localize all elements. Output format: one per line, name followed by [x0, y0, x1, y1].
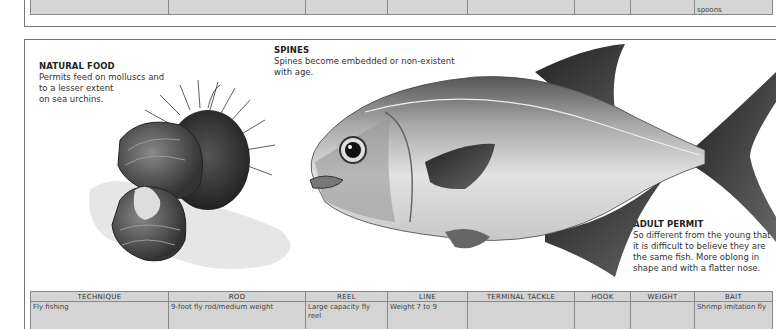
cell-technique: Fly fishing: [31, 302, 169, 329]
cell-reel: Large capacity fly reel: [306, 302, 388, 329]
col-header-bait: BAIT: [695, 292, 773, 302]
sea-urchin-mollusc-illustration: [80, 80, 310, 280]
tackle-table: TECHNIQUE ROD REEL LINE TERMINAL TACKLE …: [30, 291, 773, 329]
col-header-terminal-tackle: TERMINAL TACKLE: [468, 292, 575, 302]
col-header-reel: REEL: [306, 292, 388, 302]
caption-title: NATURAL FOOD: [39, 61, 164, 72]
prev-cell: [631, 0, 695, 15]
cell-terminal-tackle: [468, 302, 575, 329]
cell-weight: [631, 302, 695, 329]
col-header-technique: TECHNIQUE: [31, 292, 169, 302]
previous-tackle-table: spoons: [30, 0, 773, 15]
col-header-hook: HOOK: [575, 292, 631, 302]
prev-cell: [388, 0, 468, 15]
adult-permit-fish-illustration: [295, 42, 776, 282]
prev-cell-bait: spoons: [695, 0, 773, 15]
col-header-weight: WEIGHT: [631, 292, 695, 302]
cell-line: Weight 7 to 9: [388, 302, 468, 329]
prev-cell: [306, 0, 388, 15]
prev-cell: [468, 0, 575, 15]
table-row: Fly fishing 9-foot fly rod/medium weight…: [31, 302, 773, 329]
prev-cell: [575, 0, 631, 15]
cell-rod: 9-foot fly rod/medium weight: [169, 302, 306, 329]
cell-bait: Shrimp imitation fly: [695, 302, 773, 329]
prev-cell: [169, 0, 306, 15]
col-header-line: LINE: [388, 292, 468, 302]
col-header-rod: ROD: [169, 292, 306, 302]
table-header-row: TECHNIQUE ROD REEL LINE TERMINAL TACKLE …: [31, 292, 773, 302]
cell-hook: [575, 302, 631, 329]
prev-cell: [31, 0, 169, 15]
